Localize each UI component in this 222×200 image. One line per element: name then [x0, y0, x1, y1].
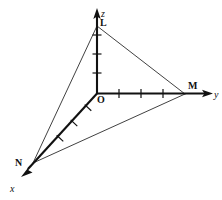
coordinate-axes-svg: [0, 0, 222, 200]
edge-L-M: [97, 26, 185, 94]
y-axis-label: y: [214, 90, 218, 100]
point-label-L: L: [100, 18, 107, 28]
point-label-N: N: [15, 158, 22, 168]
x-axis-tick-3: [57, 135, 64, 141]
point-label-M: M: [188, 81, 197, 91]
figure-canvas: z y x L M N O: [0, 0, 222, 200]
point-label-O: O: [97, 95, 105, 105]
x-axis-tick-2: [71, 120, 78, 126]
edge-N-M: [33, 94, 185, 163]
x-axis-line: [28, 94, 97, 170]
edge-L-N: [33, 26, 97, 163]
x-axis-tick-1: [85, 105, 92, 111]
x-axis-label: x: [10, 184, 14, 194]
x-axis: [21, 94, 97, 178]
